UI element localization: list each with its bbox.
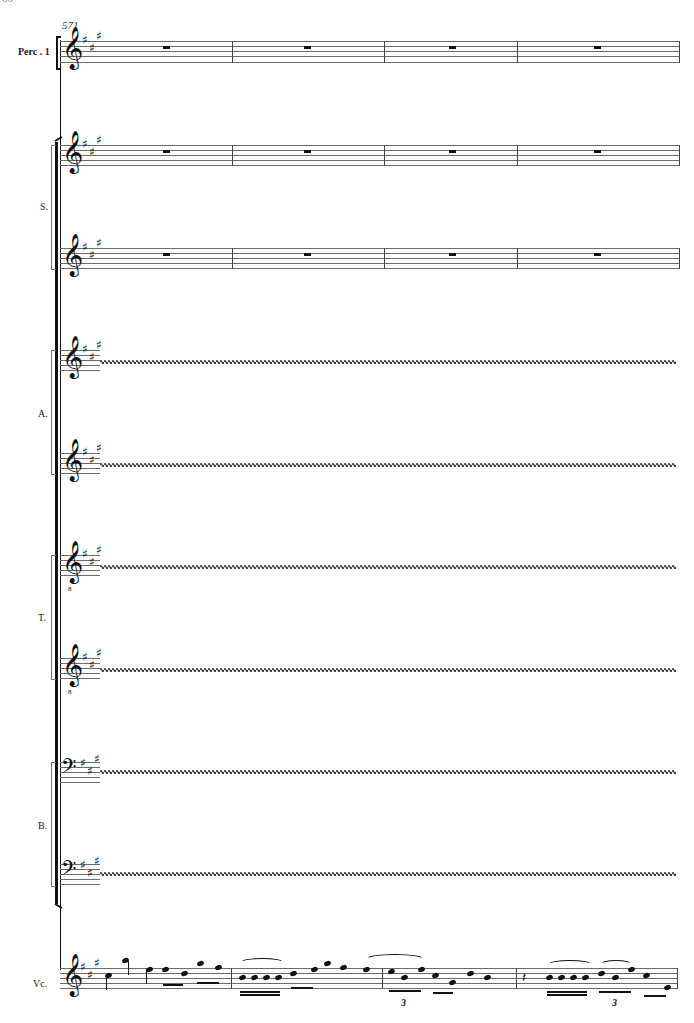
collapsed-staff-wavy-line xyxy=(100,462,676,467)
barline xyxy=(232,41,233,63)
barline xyxy=(232,145,233,166)
page-number: 60 xyxy=(2,0,13,4)
barline xyxy=(382,968,383,989)
tenor-brace xyxy=(51,555,56,680)
sharp-icon: ♯ xyxy=(82,343,88,355)
beam xyxy=(291,987,313,989)
collapsed-staff-wavy-line xyxy=(100,667,676,672)
system-start-line xyxy=(60,40,61,970)
sharp-icon: ♯ xyxy=(96,30,102,42)
treble-clef-icon: 𝄞 xyxy=(62,339,83,375)
barline xyxy=(679,248,680,269)
treble-clef-icon: 𝄞 xyxy=(62,30,83,66)
instrument-label-vc: Vc. xyxy=(33,978,47,989)
treble-8vb-clef-icon: 𝄞 xyxy=(62,647,83,683)
bracket-hook-bottom xyxy=(55,903,63,909)
stem xyxy=(146,970,147,984)
treble-8vb-clef-icon: 𝄞 xyxy=(62,544,83,580)
whole-rest xyxy=(449,150,456,153)
voice-label-alto: A. xyxy=(38,408,48,419)
beam xyxy=(433,992,453,994)
slur xyxy=(365,954,425,965)
sharp-icon: ♯ xyxy=(96,442,102,454)
barline xyxy=(231,968,232,989)
slur xyxy=(600,960,632,969)
sharp-icon: ♯ xyxy=(89,556,95,568)
beam xyxy=(240,991,280,993)
sharp-icon: ♯ xyxy=(89,351,95,363)
treble-clef-icon: 𝄞 xyxy=(62,442,83,478)
voice-label-soprano: S. xyxy=(40,201,48,212)
whole-rest xyxy=(594,150,601,153)
stem xyxy=(106,976,107,990)
sharp-icon: ♯ xyxy=(80,961,86,973)
slur xyxy=(548,960,592,969)
beam xyxy=(644,995,666,997)
sharp-icon: ♯ xyxy=(89,146,95,158)
sharp-icon: ♯ xyxy=(82,138,88,150)
sharp-icon: ♯ xyxy=(82,446,88,458)
barline xyxy=(517,41,518,63)
collapsed-staff-wavy-line xyxy=(100,359,676,364)
collapsed-staff-wavy-line xyxy=(100,564,676,569)
barline xyxy=(517,248,518,269)
barline xyxy=(679,145,680,166)
sharp-icon: ♯ xyxy=(82,651,88,663)
beam xyxy=(547,991,587,993)
barline xyxy=(232,248,233,269)
sharp-icon: ♯ xyxy=(94,855,100,867)
whole-rest xyxy=(594,253,601,256)
triplet-marker: 3 xyxy=(401,997,406,1008)
whole-rest xyxy=(163,150,170,153)
sharp-icon: ♯ xyxy=(94,957,100,969)
treble-clef-icon: 𝄞 xyxy=(62,237,83,273)
whole-rest xyxy=(449,253,456,256)
staff-s2 xyxy=(60,248,680,269)
barline xyxy=(517,145,518,166)
sharp-icon: ♯ xyxy=(96,647,102,659)
bass-clef-icon: 𝄢 xyxy=(61,757,76,781)
voice-label-tenor: T. xyxy=(38,612,46,623)
quarter-rest: 𝄽 xyxy=(522,970,526,986)
sharp-icon: ♯ xyxy=(96,339,102,351)
collapsed-staff-wavy-line xyxy=(100,871,676,876)
alto-brace xyxy=(51,350,56,475)
sharp-icon: ♯ xyxy=(82,548,88,560)
sharp-icon: ♯ xyxy=(87,765,93,777)
barline xyxy=(677,968,678,989)
staff-s1 xyxy=(60,145,680,166)
whole-rest xyxy=(163,46,170,49)
octave-8-marker: 8 xyxy=(68,688,72,696)
sharp-icon: ♯ xyxy=(89,249,95,261)
note xyxy=(323,960,331,967)
sharp-icon: ♯ xyxy=(87,867,93,879)
sharp-icon: ♯ xyxy=(80,757,86,769)
sharp-icon: ♯ xyxy=(89,42,95,54)
whole-rest xyxy=(304,253,311,256)
sharp-icon: ♯ xyxy=(82,241,88,253)
octave-8-marker: 8 xyxy=(68,585,72,593)
stem xyxy=(128,961,129,975)
beam xyxy=(599,991,631,993)
barline xyxy=(384,41,385,63)
note xyxy=(196,960,204,967)
sharp-icon: ♯ xyxy=(96,544,102,556)
whole-rest xyxy=(594,46,601,49)
sharp-icon: ♯ xyxy=(80,859,86,871)
treble-clef-icon: 𝄞 xyxy=(62,134,83,170)
note xyxy=(663,984,671,991)
whole-rest xyxy=(163,253,170,256)
beam xyxy=(547,994,587,996)
instrument-label-perc: Perc . 1 xyxy=(18,46,50,57)
barline xyxy=(679,41,680,63)
beam xyxy=(389,990,421,992)
sharp-icon: ♯ xyxy=(96,134,102,146)
whole-rest xyxy=(304,150,311,153)
bass-brace xyxy=(51,762,56,887)
sharp-icon: ♯ xyxy=(89,454,95,466)
bass-clef-icon: 𝄢 xyxy=(61,859,76,883)
voice-label-bass: B. xyxy=(38,820,47,831)
slur xyxy=(240,958,284,967)
sharp-icon: ♯ xyxy=(96,237,102,249)
staff-perc1 xyxy=(60,41,680,63)
